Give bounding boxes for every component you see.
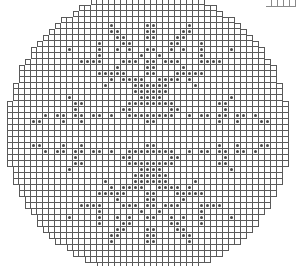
dot-piece bbox=[122, 60, 125, 63]
dot-piece bbox=[140, 114, 143, 117]
dot-piece bbox=[152, 150, 155, 153]
board-cell[interactable] bbox=[247, 227, 253, 233]
dot-piece bbox=[146, 228, 149, 231]
dot-piece bbox=[116, 48, 119, 51]
board-cell[interactable] bbox=[265, 203, 271, 209]
dot-piece bbox=[62, 114, 65, 117]
dot-piece bbox=[104, 72, 107, 75]
dot-piece bbox=[200, 222, 203, 225]
dot-piece bbox=[140, 210, 143, 213]
dot-piece bbox=[152, 66, 155, 69]
dot-piece bbox=[158, 78, 161, 81]
board-cell[interactable] bbox=[253, 221, 259, 227]
dot-piece bbox=[98, 60, 101, 63]
dot-piece bbox=[224, 156, 227, 159]
dot-piece bbox=[158, 96, 161, 99]
dot-piece bbox=[182, 234, 185, 237]
dot-piece bbox=[254, 114, 257, 117]
dot-piece bbox=[188, 72, 191, 75]
dot-piece bbox=[158, 210, 161, 213]
board-cell[interactable] bbox=[283, 161, 289, 167]
dot-piece bbox=[158, 90, 161, 93]
dot-piece bbox=[176, 186, 179, 189]
dot-piece bbox=[92, 114, 95, 117]
dot-piece bbox=[44, 114, 47, 117]
dot-piece bbox=[134, 114, 137, 117]
dot-piece bbox=[128, 222, 131, 225]
dot-piece bbox=[158, 162, 161, 165]
dot-piece bbox=[140, 162, 143, 165]
dot-piece bbox=[74, 114, 77, 117]
board-cell[interactable] bbox=[259, 209, 265, 215]
dot-piece bbox=[128, 186, 131, 189]
dot-piece bbox=[170, 48, 173, 51]
dot-piece bbox=[74, 108, 77, 111]
circular-game-board bbox=[0, 0, 296, 266]
dot-piece bbox=[194, 84, 197, 87]
dot-piece bbox=[218, 204, 221, 207]
dot-piece bbox=[128, 102, 131, 105]
dot-piece bbox=[152, 114, 155, 117]
dot-piece bbox=[152, 96, 155, 99]
dot-piece bbox=[206, 114, 209, 117]
board-cell[interactable] bbox=[217, 251, 223, 257]
dot-piece bbox=[206, 204, 209, 207]
dot-piece bbox=[224, 114, 227, 117]
dot-piece bbox=[116, 198, 119, 201]
board-cell[interactable] bbox=[271, 191, 277, 197]
dot-piece bbox=[170, 102, 173, 105]
board-cell[interactable] bbox=[235, 239, 241, 245]
dot-piece bbox=[152, 216, 155, 219]
dot-piece bbox=[104, 84, 107, 87]
dot-piece bbox=[188, 78, 191, 81]
dot-piece bbox=[110, 186, 113, 189]
dot-piece bbox=[116, 66, 119, 69]
dot-piece bbox=[176, 108, 179, 111]
dot-piece bbox=[200, 60, 203, 63]
dot-piece bbox=[182, 216, 185, 219]
dot-piece bbox=[152, 60, 155, 63]
dot-piece bbox=[110, 240, 113, 243]
dot-piece bbox=[122, 192, 125, 195]
dot-piece bbox=[110, 192, 113, 195]
dot-piece bbox=[176, 36, 179, 39]
dot-piece bbox=[146, 72, 149, 75]
dot-piece bbox=[182, 228, 185, 231]
dot-piece bbox=[140, 186, 143, 189]
dot-piece bbox=[116, 216, 119, 219]
dot-piece bbox=[146, 216, 149, 219]
dot-piece bbox=[122, 228, 125, 231]
dot-piece bbox=[146, 162, 149, 165]
dot-piece bbox=[146, 180, 149, 183]
board-cell[interactable] bbox=[205, 257, 211, 263]
dot-piece bbox=[266, 120, 269, 123]
dot-piece bbox=[200, 192, 203, 195]
dot-piece bbox=[158, 168, 161, 171]
dot-piece bbox=[104, 192, 107, 195]
dot-piece bbox=[110, 114, 113, 117]
dot-piece bbox=[164, 174, 167, 177]
dot-piece bbox=[188, 30, 191, 33]
board-cell[interactable] bbox=[277, 179, 283, 185]
dot-piece bbox=[74, 156, 77, 159]
dot-piece bbox=[146, 84, 149, 87]
board-cell[interactable] bbox=[223, 245, 229, 251]
dot-piece bbox=[98, 72, 101, 75]
dot-piece bbox=[152, 24, 155, 27]
dot-piece bbox=[176, 192, 179, 195]
dot-piece bbox=[206, 60, 209, 63]
dot-piece bbox=[158, 114, 161, 117]
dot-piece bbox=[170, 150, 173, 153]
dot-piece bbox=[32, 144, 35, 147]
dot-piece bbox=[98, 42, 101, 45]
dot-piece bbox=[128, 114, 131, 117]
dot-piece bbox=[80, 114, 83, 117]
dot-piece bbox=[146, 30, 149, 33]
dot-piece bbox=[176, 156, 179, 159]
board-cell[interactable] bbox=[241, 233, 247, 239]
dot-piece bbox=[98, 216, 101, 219]
dot-piece bbox=[134, 174, 137, 177]
dot-piece bbox=[152, 180, 155, 183]
dot-piece bbox=[188, 234, 191, 237]
dot-piece bbox=[68, 216, 71, 219]
